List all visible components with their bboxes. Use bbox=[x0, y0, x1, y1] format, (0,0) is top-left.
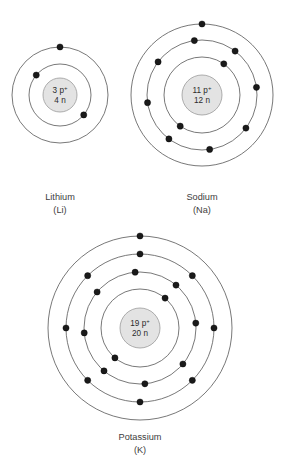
electron-potassium-shell1-2 bbox=[112, 355, 118, 361]
electron-potassium-shell4-1 bbox=[137, 233, 143, 239]
atom-sodium: 11 p+12 n bbox=[131, 21, 273, 166]
electron-sodium-shell2-3 bbox=[253, 84, 259, 90]
electron-potassium-shell1-1 bbox=[162, 295, 168, 301]
electron-potassium-shell3-4 bbox=[189, 377, 195, 383]
atoms-layer: 3 p+4 n11 p+12 n19 p+20 n bbox=[12, 21, 273, 420]
element-symbol-potassium: (K) bbox=[134, 445, 146, 455]
electron-sodium-shell2-4 bbox=[243, 125, 249, 131]
electron-potassium-shell2-5 bbox=[142, 381, 148, 387]
atom-diagram-canvas: 3 p+4 n11 p+12 n19 p+20 n Lithium(Li)Sod… bbox=[0, 0, 281, 471]
electron-potassium-shell3-7 bbox=[63, 325, 69, 331]
element-name-potassium: Potassium bbox=[119, 432, 162, 442]
element-name-lithium: Lithium bbox=[45, 192, 75, 202]
electron-potassium-shell2-1 bbox=[132, 269, 138, 275]
electron-sodium-shell2-6 bbox=[166, 136, 172, 142]
electron-potassium-shell2-8 bbox=[94, 289, 100, 295]
atom-lithium: 3 p+4 n bbox=[12, 44, 108, 143]
electron-sodium-shell1-1 bbox=[221, 61, 227, 67]
nucleus-neutrons-sodium: 12 n bbox=[194, 96, 210, 105]
electron-potassium-shell2-4 bbox=[180, 361, 186, 367]
electron-potassium-shell3-5 bbox=[137, 399, 143, 405]
element-name-sodium: Sodium bbox=[186, 192, 217, 202]
nucleus-neutrons-potassium: 20 n bbox=[132, 329, 148, 338]
electron-potassium-shell2-6 bbox=[101, 368, 107, 374]
element-symbol-sodium: (Na) bbox=[193, 205, 211, 215]
electron-sodium-shell2-2 bbox=[232, 48, 238, 54]
electron-lithium-shell2-1 bbox=[57, 44, 63, 50]
electron-sodium-shell2-5 bbox=[207, 146, 213, 152]
electron-lithium-shell1-2 bbox=[81, 112, 87, 118]
electron-potassium-shell3-8 bbox=[85, 273, 91, 279]
nucleus-neutrons-lithium: 4 n bbox=[54, 96, 66, 105]
electron-sodium-shell2-1 bbox=[191, 37, 197, 43]
electron-sodium-shell2-7 bbox=[144, 100, 150, 106]
electron-potassium-shell3-6 bbox=[85, 377, 91, 383]
electron-sodium-shell2-8 bbox=[155, 59, 161, 65]
element-symbol-lithium: (Li) bbox=[53, 205, 66, 215]
electron-sodium-shell1-2 bbox=[177, 123, 183, 129]
atom-potassium: 19 p+20 n bbox=[48, 233, 232, 420]
electron-potassium-shell3-2 bbox=[189, 273, 195, 279]
electron-lithium-shell1-1 bbox=[33, 72, 39, 78]
electron-potassium-shell3-1 bbox=[137, 251, 143, 257]
electron-potassium-shell3-3 bbox=[211, 325, 217, 331]
atomic-models-diagram: 3 p+4 n11 p+12 n19 p+20 n Lithium(Li)Sod… bbox=[0, 0, 281, 471]
electron-potassium-shell2-3 bbox=[193, 320, 199, 326]
electron-potassium-shell2-7 bbox=[81, 330, 87, 336]
electron-potassium-shell2-2 bbox=[173, 282, 179, 288]
electron-sodium-shell3-1 bbox=[199, 21, 205, 27]
